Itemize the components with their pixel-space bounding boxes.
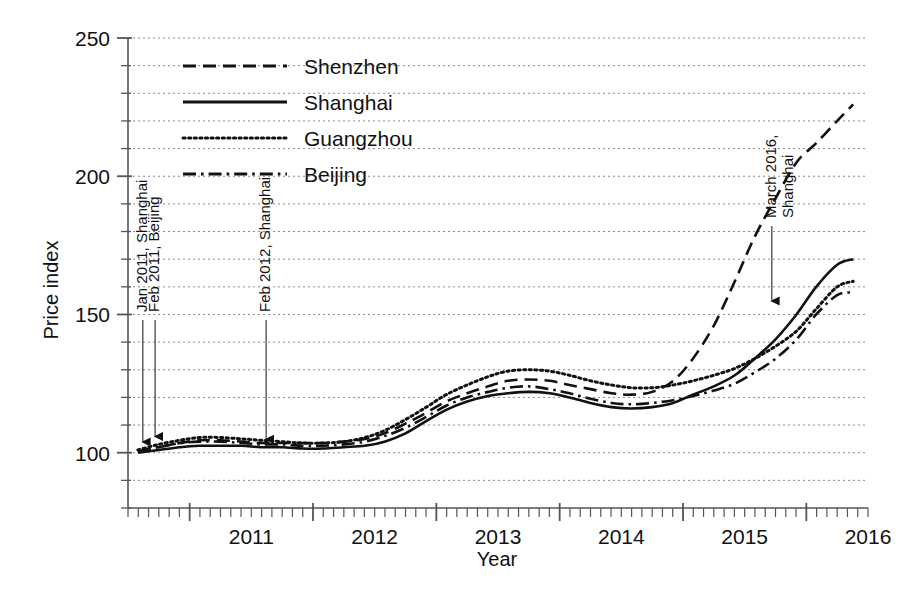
annotation-label: Feb 2012, Shanghai (256, 177, 273, 312)
annotation-label: Shanghai (779, 155, 796, 218)
x-axis-title: Year (477, 548, 518, 570)
x-tick-label-2016: 2016 (845, 525, 892, 548)
x-tick-label-2015: 2015 (721, 525, 768, 548)
x-tick-label-2013: 2013 (475, 525, 522, 548)
y-tick-label-250: 250 (75, 27, 110, 50)
x-tick-label-2011: 2011 (229, 525, 274, 548)
x-tick-label-2014: 2014 (598, 525, 645, 548)
y-tick-label-200: 200 (75, 165, 110, 188)
legend-label-guangzhou: Guangzhou (304, 127, 413, 150)
legend-label-beijing: Beijing (304, 163, 367, 186)
price-index-line-chart: 201120122013201420152016 100150200250 Ja… (0, 0, 912, 599)
annotation-label: March 2016, (762, 135, 779, 218)
annotation-label: Feb 2011, Beijing (145, 196, 162, 312)
legend-label-shanghai: Shanghai (304, 91, 393, 114)
legend-label-shenzhen: Shenzhen (304, 55, 399, 78)
chart-canvas: 201120122013201420152016 100150200250 Ja… (0, 0, 912, 599)
y-axis-title: Price index (40, 241, 62, 340)
y-tick-label-150: 150 (75, 303, 110, 326)
x-tick-label-2012: 2012 (351, 525, 398, 548)
y-tick-label-100: 100 (75, 442, 110, 465)
